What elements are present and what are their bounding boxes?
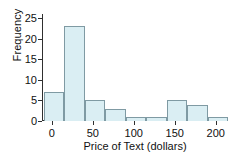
y-tick-mark: [38, 39, 42, 40]
y-axis-title: Frequency: [11, 0, 25, 78]
y-tick-mark: [38, 80, 42, 81]
histogram-figure: Frequency 0510152025 050100150200 Price …: [0, 0, 234, 165]
x-tick-mark: [216, 121, 217, 125]
x-tick-label: 100: [125, 127, 143, 139]
x-tick-mark: [52, 121, 53, 125]
y-tick-label: 20: [25, 33, 37, 45]
histogram-bar: [105, 109, 125, 121]
histogram-bar: [187, 105, 207, 121]
x-tick-label: 50: [87, 127, 99, 139]
plot-area: 0510152025 050100150200: [42, 14, 228, 121]
histogram-bar: [64, 26, 84, 121]
histogram-bar: [208, 117, 228, 121]
y-tick-label: 0: [31, 115, 37, 127]
x-tick-mark: [134, 121, 135, 125]
y-tick-mark: [38, 59, 42, 60]
x-tick-label: 150: [166, 127, 184, 139]
histogram-bar: [44, 92, 64, 121]
histogram-bar: [146, 117, 166, 121]
histogram-bar: [126, 117, 146, 121]
histogram-bar: [85, 100, 105, 121]
y-tick-mark: [38, 100, 42, 101]
y-tick-label: 10: [25, 74, 37, 86]
y-tick-mark: [38, 121, 42, 122]
x-tick-label: 0: [49, 127, 55, 139]
histogram-bar: [167, 100, 187, 121]
y-tick-label: 5: [31, 94, 37, 106]
x-axis-title: Price of Text (dollars): [42, 140, 228, 152]
x-tick-mark: [175, 121, 176, 125]
y-tick-label: 25: [25, 12, 37, 24]
x-tick-mark: [93, 121, 94, 125]
y-tick-mark: [38, 18, 42, 19]
x-tick-label: 200: [207, 127, 225, 139]
y-tick-label: 15: [25, 53, 37, 65]
